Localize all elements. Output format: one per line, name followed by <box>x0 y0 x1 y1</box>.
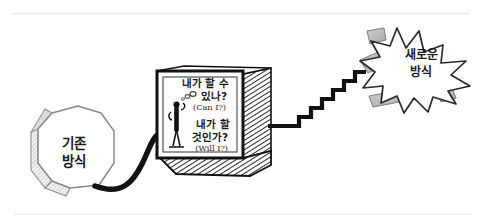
starburst-label-line1: 새로운 <box>405 47 438 62</box>
decision-box: 내가 할 수 있나? (Can I?) 내가 할 것인가? (Will I?) <box>157 66 271 176</box>
existing-method-octagon: 기존 방식 <box>31 106 114 196</box>
figure-canvas: 기존 방식 <box>0 0 495 224</box>
octagon-label-line2: 방식 <box>62 153 86 169</box>
starburst-label-line2: 방식 <box>410 64 432 79</box>
question1-line1: 내가 할 수 <box>182 77 229 89</box>
question2-english: (Will I?) <box>195 143 228 153</box>
question2-line2: 것인가? <box>192 131 228 143</box>
question2-line1: 내가 할 <box>196 118 230 130</box>
box-right-face <box>243 68 271 158</box>
question1-line2: 있나? <box>201 90 227 102</box>
diagram-illustration: 기존 방식 <box>0 0 495 224</box>
question1-english: (Can I?) <box>193 102 226 112</box>
octagon-label-line1: 기존 <box>62 135 87 151</box>
